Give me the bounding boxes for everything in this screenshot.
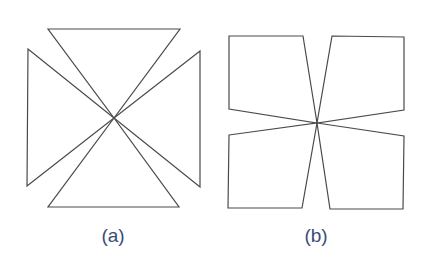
bottom-right-quad xyxy=(317,123,404,209)
panel-b xyxy=(228,36,404,209)
bottom-left-quad xyxy=(228,123,317,208)
panel-b-label: (b) xyxy=(286,224,346,248)
top-right-quad xyxy=(317,36,404,123)
panel-a xyxy=(27,29,200,207)
top-left-quad xyxy=(229,36,317,123)
panel-a-label: (a) xyxy=(83,224,143,248)
figure-canvas xyxy=(0,0,434,260)
